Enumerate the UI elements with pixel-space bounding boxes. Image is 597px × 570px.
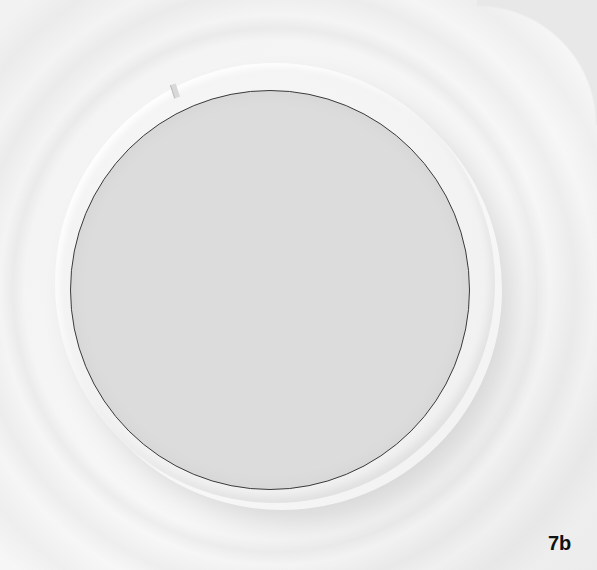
figure-label: 7b xyxy=(548,532,571,555)
background-corner-arc xyxy=(477,0,597,125)
inner-disc xyxy=(70,90,470,490)
